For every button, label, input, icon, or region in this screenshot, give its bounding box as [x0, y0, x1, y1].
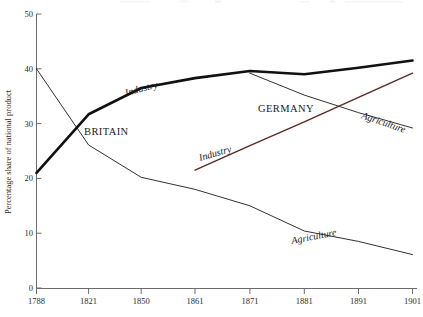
- series-line-britain-industry: [37, 61, 413, 173]
- y-axis-ticks: [37, 14, 42, 288]
- cropped-title-sliver: [120, 1, 403, 3]
- series-group: [37, 61, 413, 255]
- series-label-britain-industry: Industry: [123, 79, 160, 99]
- y-tick-label-20: 20: [25, 173, 34, 183]
- y-axis-title: Percentage share of national product: [3, 89, 13, 214]
- y-tick-label-0: 0: [29, 283, 33, 293]
- country-label-germany: GERMANY: [258, 103, 314, 114]
- y-tick-label-40: 40: [25, 64, 34, 74]
- x-tick-label-1881: 1881: [296, 296, 313, 306]
- x-tick-label-1788: 1788: [28, 296, 45, 306]
- series-line-britain-agriculture: [37, 69, 413, 255]
- x-tick-label-1861: 1861: [187, 296, 204, 306]
- y-tick-label-10: 10: [25, 228, 34, 238]
- y-tick-label-30: 30: [25, 119, 34, 129]
- line-chart-canvas: 50 40 30 20 10 0 1788 1821 1850 1861 187…: [0, 0, 423, 317]
- x-tick-label-1821: 1821: [80, 296, 97, 306]
- x-tick-label-1891: 1891: [350, 296, 367, 306]
- x-axis-ticks: [37, 289, 413, 295]
- x-tick-label-1871: 1871: [241, 296, 258, 306]
- x-tick-label-1901: 1901: [404, 296, 421, 306]
- country-label-britain: BRITAIN: [84, 126, 129, 137]
- series-label-britain-agriculture: Agriculture: [289, 226, 338, 246]
- series-label-germany-industry: Industry: [197, 143, 234, 163]
- series-label-germany-agriculture: Agriculture: [359, 109, 407, 135]
- chart-figure: 50 40 30 20 10 0 1788 1821 1850 1861 187…: [0, 0, 423, 317]
- x-tick-label-1850: 1850: [133, 296, 150, 306]
- y-tick-label-50: 50: [25, 9, 34, 19]
